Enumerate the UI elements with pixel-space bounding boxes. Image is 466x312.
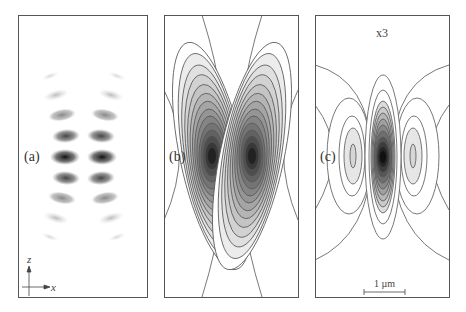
x-axis-label: x: [50, 281, 56, 293]
panel-c-label: (c): [320, 149, 336, 165]
panel-b-label: (b): [169, 149, 186, 165]
panel-a-label: (a): [24, 149, 40, 165]
scale-factor-annotation: x3: [376, 26, 388, 40]
panel-c: x3 (c) 1 µm: [315, 16, 450, 298]
figure: (a) z x: [0, 0, 466, 312]
panel-b: (b): [157, 15, 308, 298]
z-axis-label: z: [26, 253, 32, 265]
scale-bar-label: 1 µm: [374, 278, 395, 289]
panel-a: (a) z x: [19, 16, 148, 298]
